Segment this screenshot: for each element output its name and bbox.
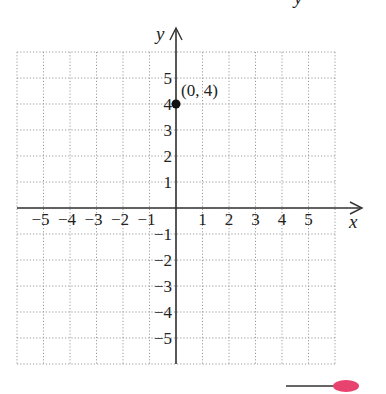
y-tick-label: −4 xyxy=(154,303,173,322)
coordinate-plane: −5−4−3−2−11234554321−1−2−3−4−5 (0, 4) x … xyxy=(0,0,386,394)
y-tick-label: 1 xyxy=(164,173,173,192)
y-tick-label: −2 xyxy=(154,251,172,270)
x-tick-label: 4 xyxy=(278,210,287,229)
y-tick-label: −1 xyxy=(154,225,172,244)
y-axis-label: y xyxy=(154,23,165,44)
x-tick-label: −3 xyxy=(84,210,102,229)
x-axis-label: x xyxy=(348,211,358,232)
x-tick-label: 5 xyxy=(304,210,313,229)
y-tick-label: 4 xyxy=(164,95,173,114)
x-tick-label: 1 xyxy=(198,210,207,229)
point-label: (0, 4) xyxy=(181,81,218,100)
y-tick-label: −3 xyxy=(154,277,172,296)
x-tick-label: −4 xyxy=(58,210,77,229)
data-points: (0, 4) xyxy=(172,81,218,109)
y-tick-label: 2 xyxy=(164,147,173,166)
x-tick-label: 2 xyxy=(225,210,234,229)
x-tick-label: −5 xyxy=(31,210,49,229)
y-tick-label: 3 xyxy=(164,121,173,140)
data-point xyxy=(172,100,181,109)
x-tick-label: −1 xyxy=(137,210,155,229)
y-tick-label: 5 xyxy=(164,69,173,88)
x-tick-label: 3 xyxy=(251,210,260,229)
cropped-text-fragment: y xyxy=(292,0,303,8)
x-tick-label: −2 xyxy=(111,210,129,229)
y-tick-label: −5 xyxy=(154,329,172,348)
pen-marker-icon xyxy=(286,380,359,392)
